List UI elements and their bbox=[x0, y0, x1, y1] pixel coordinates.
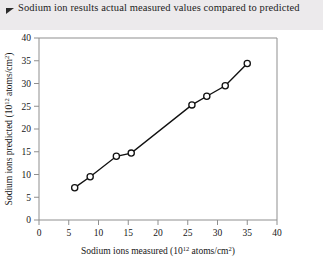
x-tick-label-30: 30 bbox=[213, 228, 223, 238]
chart-figure: 0 5 10 15 20 25 30 35 40 0 5 10 15 20 bbox=[0, 30, 323, 280]
data-point bbox=[87, 174, 93, 180]
data-point bbox=[128, 150, 134, 156]
x-tick-label-15: 15 bbox=[124, 228, 134, 238]
y-axis-title-tail: atoms/cm bbox=[4, 58, 14, 98]
data-point bbox=[244, 60, 250, 66]
x-tick-label-20: 20 bbox=[153, 228, 163, 238]
data-point bbox=[189, 102, 195, 108]
figure-caption-banner: Sodium ion results actual measured value… bbox=[0, 0, 323, 30]
data-markers-group bbox=[72, 60, 251, 190]
x-axis-title: Sodium ions measured (1012 atoms/cm2) bbox=[81, 245, 235, 258]
y-tick-label-30: 30 bbox=[22, 79, 32, 89]
trend-line bbox=[75, 63, 248, 187]
axes-group bbox=[39, 38, 277, 220]
data-point bbox=[113, 153, 119, 159]
y-tick-label-0: 0 bbox=[26, 215, 31, 225]
y-tick-label-15: 15 bbox=[22, 147, 32, 157]
data-point bbox=[222, 83, 228, 89]
data-point bbox=[72, 185, 78, 191]
y-ticks-group: 0 5 10 15 20 25 30 35 40 bbox=[22, 33, 40, 225]
y-tick-label-10: 10 bbox=[22, 170, 32, 180]
y-tick-label-35: 35 bbox=[22, 56, 32, 66]
x-tick-label-10: 10 bbox=[94, 228, 104, 238]
x-tick-label-5: 5 bbox=[66, 228, 71, 238]
x-axis-title-main: Sodium ions measured (10 bbox=[81, 246, 183, 257]
data-point bbox=[204, 93, 210, 99]
y-tick-label-5: 5 bbox=[26, 193, 31, 203]
triangle-bullet-icon bbox=[6, 8, 14, 14]
figure-caption-text: Sodium ion results actual measured value… bbox=[18, 2, 300, 15]
x-axis-title-tail: atoms/cm bbox=[189, 246, 229, 256]
y-tick-label-25: 25 bbox=[22, 102, 32, 112]
caption-row: Sodium ion results actual measured value… bbox=[6, 2, 319, 15]
y-axis-title-main: Sodium ions predicted (10 bbox=[4, 105, 15, 206]
x-axis-title-end: ) bbox=[232, 246, 235, 257]
x-tick-label-35: 35 bbox=[243, 228, 253, 238]
x-ticks-group: 0 5 10 15 20 25 30 35 40 bbox=[37, 220, 282, 238]
y-tick-label-40: 40 bbox=[22, 33, 32, 43]
y-axis-title: Sodium ions predicted (1012 atoms/cm2) bbox=[3, 53, 16, 206]
x-tick-label-25: 25 bbox=[183, 228, 193, 238]
scatter-plot: 0 5 10 15 20 25 30 35 40 0 5 10 15 20 bbox=[0, 30, 323, 280]
y-tick-label-20: 20 bbox=[22, 124, 32, 134]
x-tick-label-40: 40 bbox=[272, 228, 282, 238]
y-axis-title-end: ) bbox=[4, 53, 15, 56]
x-tick-label-0: 0 bbox=[37, 228, 42, 238]
data-series-group bbox=[72, 60, 251, 190]
